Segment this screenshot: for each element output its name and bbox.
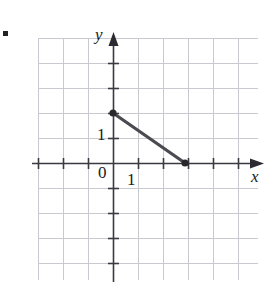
segment-endpoint-right: [181, 159, 188, 166]
y-axis: [108, 32, 119, 282]
figure-canvas: y x 0 1 1: [0, 0, 280, 288]
segment-endpoint-left: [109, 109, 116, 116]
x-axis: [32, 158, 264, 169]
grid-lines-horizontal: [38, 39, 258, 264]
y-axis-tick-label-one: 1: [97, 126, 106, 143]
y-axis-label: y: [95, 26, 103, 43]
origin-label: 0: [98, 164, 107, 181]
coordinate-graph: [0, 0, 280, 288]
x-axis-tick-label-one: 1: [127, 171, 136, 188]
x-axis-label: x: [251, 168, 259, 185]
